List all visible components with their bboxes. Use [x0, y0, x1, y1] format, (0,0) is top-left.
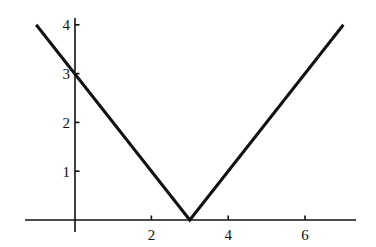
y-tick-label: 2 — [63, 115, 71, 131]
plot-figure: 2 4 6 1 2 3 4 — [0, 0, 376, 247]
y-tick-label: 1 — [63, 164, 71, 180]
x-tick-label: 6 — [301, 227, 309, 243]
x-tick-label: 4 — [224, 227, 232, 243]
x-tick-label: 2 — [148, 227, 156, 243]
y-tick-label: 4 — [63, 17, 71, 33]
plot-background — [0, 0, 376, 247]
plot-canvas: 2 4 6 1 2 3 4 — [0, 0, 376, 247]
